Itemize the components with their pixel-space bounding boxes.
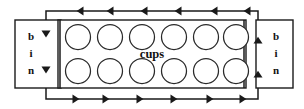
cup-circle	[66, 59, 91, 84]
arrow-head-top-left	[107, 6, 114, 15]
cups-label: cups	[140, 47, 164, 61]
arrow-head-bottom-right	[137, 94, 144, 103]
left-bin-label-line-3: n	[28, 64, 34, 76]
arrow-head-bottom-right	[73, 94, 80, 103]
arrow-head-top-left	[141, 6, 148, 15]
diagram-canvas: b i n b i n cups	[0, 0, 304, 109]
right-bin-label-line-2: i	[274, 47, 277, 59]
right-bin-group: b i n	[256, 20, 293, 88]
arrow-head-bottom-right	[240, 94, 247, 103]
arrow-head-top-left	[244, 6, 251, 15]
cup-circle	[98, 25, 123, 50]
left-bin-label-line-2: i	[29, 47, 32, 59]
cup-circle	[130, 25, 155, 50]
diagram-svg: b i n b i n cups	[0, 0, 304, 109]
cup-circle	[130, 59, 155, 84]
cup-circle	[66, 25, 91, 50]
arrow-head-bottom-right	[207, 94, 214, 103]
cups-group: cups	[58, 20, 249, 88]
left-bin-label-line-1: b	[28, 30, 34, 42]
cup-circle	[98, 59, 123, 84]
cup-circle	[194, 25, 219, 50]
arrow-head-top-left	[211, 6, 218, 15]
arrow-head-bottom-right	[103, 94, 110, 103]
right-bin-label-line-3: n	[273, 64, 279, 76]
right-bin-label-line-1: b	[273, 30, 279, 42]
cup-circle	[224, 59, 249, 84]
arrow-head-top-left	[77, 6, 84, 15]
cup-circle	[224, 25, 249, 50]
left-bin-group: b i n	[15, 20, 61, 88]
left-bin-box	[15, 20, 61, 88]
arrow-head-top-left	[175, 6, 182, 15]
cup-circle	[162, 25, 187, 50]
arrow-head-bottom-right	[171, 94, 178, 103]
cup-circle	[194, 59, 219, 84]
cup-circle	[162, 59, 187, 84]
